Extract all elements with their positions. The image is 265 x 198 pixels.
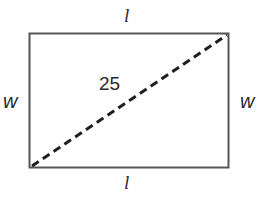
left-side-label: w — [3, 91, 17, 111]
dashed-diagonal — [32, 35, 227, 166]
rectangle-diagram-svg — [0, 0, 265, 198]
diagonal-length-label: 25 — [99, 74, 120, 93]
bottom-side-label: l — [124, 173, 129, 192]
right-side-label: w — [240, 91, 254, 111]
rectangle-diagram: l l w w 25 — [0, 0, 265, 198]
top-side-label: l — [124, 6, 129, 25]
